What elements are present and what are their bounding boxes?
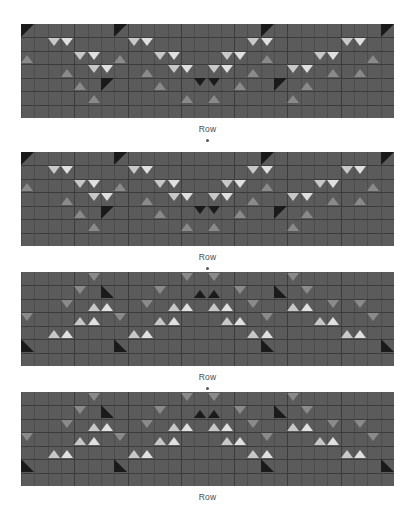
glyph-down-light [208,65,220,73]
glyph-up-pale [181,303,193,311]
glyph-down-mid [261,433,273,441]
glyph-down-light [247,38,259,46]
glyph-up-mid [234,82,246,90]
grid-line-vertical-minor [247,392,248,486]
grid-line-horizontal [21,219,394,220]
plot-area-1[interactable] [21,152,394,246]
glyph-down-light [341,166,353,174]
grid-line-vertical-minor [194,392,195,486]
glyph-down-light [287,65,299,73]
glyph-down-mid [141,420,153,428]
glyph-corner-dark [21,152,34,165]
grid-line-vertical-minor [354,272,355,366]
grid-line-vertical-minor [341,392,342,486]
glyph-down-mid [74,406,86,414]
glyph-down-mid [354,300,366,308]
glyph-up-pale [101,423,113,431]
grid-line-horizontal [21,339,394,340]
glyph-down-pale [234,180,246,188]
glyph-down-mid [234,286,246,294]
grid-line-vertical-minor [74,152,75,246]
glyph-down-mid [247,420,259,428]
glyph-up-light [48,330,60,338]
glyph-up-black [194,410,206,418]
glyph-down-black [194,78,206,86]
grid-line-vertical-minor [381,152,382,246]
glyph-up-mid [61,197,73,205]
glyph-up-pale [221,303,233,311]
glyph-up-mid [234,210,246,218]
glyph-down-mid [261,313,273,321]
glyph-up-pale [141,450,153,458]
glyph-up-light [48,450,60,458]
glyph-corner-dark [274,206,287,219]
glyph-up-light [154,317,166,325]
glyph-down-pale [301,65,313,73]
figure-root: RowRowRowRow [0,0,415,518]
glyph-corner-dark [101,78,114,91]
grid-line-vertical-minor [287,272,288,366]
glyph-down-pale [234,52,246,60]
glyph-up-light [314,437,326,445]
grid-line-vertical-minor [208,272,209,366]
glyph-down-mid [114,433,126,441]
grid-line-horizontal [21,473,394,474]
plot-area-0[interactable] [21,24,394,118]
glyph-up-mid [301,82,313,90]
glyph-up-mid [74,82,86,90]
glyph-down-mid [88,273,100,281]
glyph-corner-dark-b [381,339,394,352]
glyph-down-pale [101,193,113,201]
grid-line-vertical-minor [181,272,182,366]
glyph-up-mid [74,210,86,218]
glyph-down-light [74,52,86,60]
glyph-up-light [221,437,233,445]
glyph-down-light [168,193,180,201]
glyph-down-mid [301,286,313,294]
grid-line-vertical-minor [274,152,275,246]
glyph-up-light [208,303,220,311]
glyph-down-pale [354,38,366,46]
glyph-down-pale [301,193,313,201]
glyph-up-black [208,290,220,298]
grid-line-vertical-minor [48,392,49,486]
glyph-corner-dark-b [21,459,34,472]
glyph-corner-dark [101,206,114,219]
glyph-up-light [208,423,220,431]
grid-line-vertical-minor [181,392,182,486]
glyph-up-light [341,330,353,338]
grid-line-horizontal [21,459,394,460]
glyph-down-pale [168,52,180,60]
plot-area-3[interactable] [21,392,394,486]
glyph-down-pale [327,180,339,188]
glyph-up-light [88,423,100,431]
glyph-up-mid [61,69,73,77]
grid-line-horizontal [21,233,394,234]
glyph-up-light [221,317,233,325]
grid-line-vertical-minor [34,272,35,366]
glyph-down-light [128,166,140,174]
grid-line-vertical-minor [128,272,129,366]
glyph-down-mid [208,393,220,401]
glyph-down-pale [88,180,100,188]
glyph-down-light [341,38,353,46]
glyph-up-mid [354,69,366,77]
plot-area-2[interactable] [21,272,394,366]
glyph-up-light [287,303,299,311]
glyph-up-mid [154,82,166,90]
glyph-up-mid [287,223,299,231]
glyph-up-light [168,303,180,311]
panel-separator-dot [206,267,209,270]
glyph-down-pale [141,38,153,46]
glyph-up-mid [301,210,313,218]
grid-line-vertical-minor [234,24,235,118]
glyph-corner-dark [381,152,394,165]
glyph-up-mid [367,55,379,63]
glyph-down-black [208,78,220,86]
glyph-down-light [88,65,100,73]
glyph-down-mid [367,313,379,321]
x-axis-label-0: Row [0,124,415,134]
glyph-down-mid [21,313,33,321]
glyph-up-light [287,423,299,431]
glyph-down-light [208,193,220,201]
